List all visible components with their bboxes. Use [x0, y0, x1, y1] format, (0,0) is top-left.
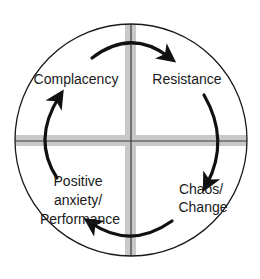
stage-label-chaos-change: Chaos/ Change — [178, 181, 227, 215]
change-cycle-diagram: Complacency Resistance Chaos/ Change Pos… — [0, 0, 260, 279]
stage-label-positive-anxiety-performance: Positive anxiety/ Performance — [40, 173, 120, 227]
stage-label-resistance: Resistance — [152, 71, 221, 87]
stage-label-complacency: Complacency — [34, 71, 119, 87]
